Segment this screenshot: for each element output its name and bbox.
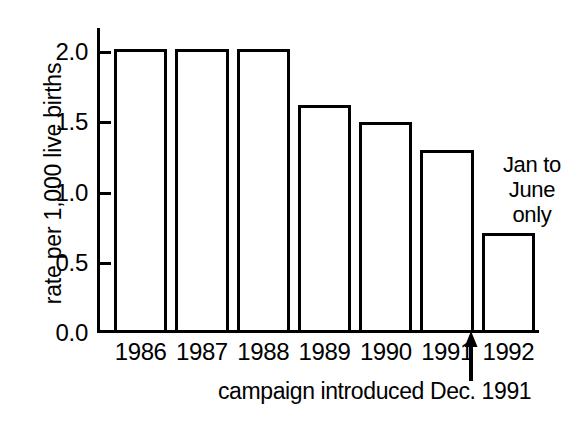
y-tick-mark [100,121,111,124]
annotation-line: Jan to [489,152,575,177]
bar [237,49,290,330]
y-tick-mark [100,51,111,54]
x-tick-label: 1988 [237,338,289,366]
bar [114,49,167,330]
x-tick-label: 1990 [360,338,412,366]
bar-chart: rate per 1,000 live births 0.00.51.01.52… [0,0,577,421]
y-axis-line [97,28,100,333]
x-tick-label: 1986 [115,338,167,366]
x-tick-label: 1989 [299,338,351,366]
campaign-arrow-icon [464,331,478,381]
annotation-campaign-introduced: campaign introduced Dec. 1991 [218,378,531,405]
y-tick-label: 0.5 [32,249,88,277]
bar [359,122,412,330]
bar [420,150,473,330]
y-tick-mark [100,262,111,265]
y-tick-label: 1.5 [32,108,88,136]
bar [482,233,535,330]
annotation-line: only [489,202,575,227]
y-tick-mark [100,192,111,195]
x-tick-label: 1992 [482,338,534,366]
y-tick-label: 2.0 [32,38,88,66]
x-tick-label: 1987 [176,338,228,366]
y-tick-label: 1.0 [32,179,88,207]
annotation-line: June [489,177,575,202]
annotation-jan-to-june-only: Jan toJuneonly [489,152,575,227]
bar [298,105,351,330]
bar-series [110,28,539,330]
y-tick-label: 0.0 [32,319,88,347]
y-axis-tick-labels: 0.00.51.01.52.0 [30,0,88,421]
plot-area [97,28,539,333]
bar [175,49,228,330]
